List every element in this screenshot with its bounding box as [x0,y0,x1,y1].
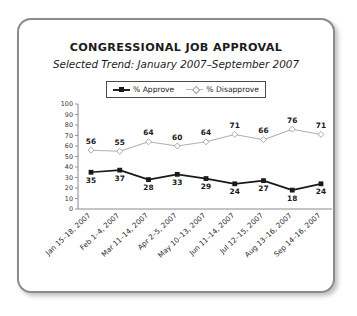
marker-diamond [289,126,295,132]
x-axis-label: Aug 13–16, 2007 [243,211,294,259]
x-axis-labels: Jan 15–18, 2007Feb 1–4, 2007Mar 11–14, 2… [43,211,322,260]
legend-marker-square-icon [113,85,130,94]
data-label: 29 [201,182,211,191]
chart-axes [78,104,332,209]
marker-square [117,168,122,173]
data-label: 66 [258,126,268,135]
marker-square [89,170,94,175]
legend-item-disapprove: % Disapprove [186,85,259,94]
series-line-0 [91,170,321,190]
marker-square [232,181,237,186]
marker-diamond [318,131,324,137]
y-tick-label: 10 [65,195,73,203]
marker-diamond [261,137,267,143]
y-tick-label: 100 [61,100,73,108]
y-tick-label: 20 [65,184,73,192]
chart-title: CONGRESSIONAL JOB APPROVAL [19,41,333,54]
data-label: 37 [115,174,125,183]
y-tick-label: 60 [65,142,73,150]
y-tick-label: 70 [65,132,73,140]
series-lines [91,129,321,190]
data-label: 71 [316,121,326,130]
y-tick-label: 50 [65,153,73,161]
marker-square [204,176,209,181]
marker-diamond [174,143,180,149]
data-label: 64 [201,128,211,137]
marker-square [175,172,180,177]
legend-item-approve: % Approve [113,85,174,94]
series-markers [88,126,324,192]
x-axis-label: Jul 12–15, 2007 [217,211,265,256]
data-label: 24 [230,187,240,196]
y-axis-ticks: 1009080706050403020100 [61,100,78,213]
legend-label-disapprove: % Disapprove [206,85,259,94]
data-label: 18 [287,194,297,203]
marker-diamond [88,147,94,153]
marker-square [146,177,151,182]
series-line-1 [91,129,321,151]
data-label: 24 [316,187,326,196]
y-tick-label: 0 [69,205,73,213]
marker-diamond [117,148,123,154]
marker-diamond [146,139,152,145]
data-label: 71 [230,121,240,130]
data-label: 64 [143,128,153,137]
x-axis-label: Apr 2–5, 2007 [136,211,179,252]
data-label: 27 [258,184,268,193]
marker-square [261,178,266,183]
y-tick-label: 40 [65,163,73,171]
data-label: 35 [86,176,96,185]
marker-diamond [232,131,238,137]
x-axis-label: Sep 14–16, 2007 [272,211,322,259]
legend-label-approve: % Approve [133,85,174,94]
data-label: 55 [115,138,125,147]
data-label: 33 [172,178,182,187]
x-axis-label: Mar 11–14, 2007 [99,211,149,259]
y-tick-label: 80 [65,121,73,129]
x-axis-label: May 10–13, 2007 [156,211,207,260]
x-axis-label: Feb 1–4, 2007 [78,211,121,252]
data-label: 28 [143,183,153,192]
chart-subtitle: Selected Trend: January 2007–September 2… [19,58,333,70]
y-tick-label: 30 [65,174,73,182]
legend-marker-diamond-icon [186,85,203,94]
marker-square [290,188,295,193]
x-axis-label: Jan 15–18, 2007 [43,211,92,258]
marker-square [319,181,324,186]
data-label: 76 [287,116,297,125]
chart-card: CONGRESSIONAL JOB APPROVAL Selected Tren… [17,18,335,293]
chart-legend: % Approve % Disapprove [106,81,266,98]
data-label: 56 [86,137,96,146]
marker-diamond [203,139,209,145]
data-labels: 353728332924271824565564606471667671 [86,116,326,203]
x-axis-label: Jun 11–14, 2007 [187,211,236,258]
y-tick-label: 90 [65,111,73,119]
data-label: 60 [172,133,182,142]
